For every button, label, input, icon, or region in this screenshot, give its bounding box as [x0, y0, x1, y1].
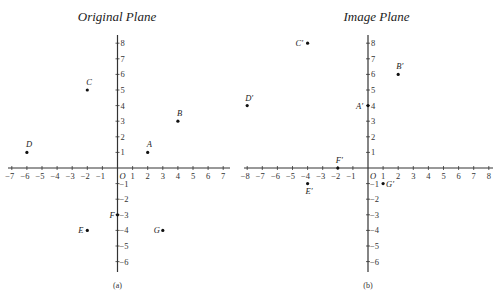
y-tick-label: 3	[371, 116, 375, 126]
coordinate-planes-figure: Original Plane−7−6−5−4−3−2−11234567−6−5−…	[0, 0, 495, 295]
y-tick-label: 7	[371, 54, 375, 64]
point-label: C	[86, 77, 92, 87]
y-tick-label: −4	[370, 225, 380, 235]
x-tick-label: −4	[301, 171, 311, 181]
x-tick-label: −7	[5, 171, 14, 181]
y-tick-label: 3	[121, 116, 125, 126]
point-marker	[116, 213, 119, 216]
point-label: B	[177, 108, 182, 118]
plane-title: Original Plane	[78, 9, 157, 24]
y-tick-label: 1	[371, 147, 375, 157]
x-tick-label: 7	[472, 171, 476, 181]
y-tick-label: 6	[121, 69, 125, 79]
x-tick-label: −1	[346, 171, 355, 181]
x-tick-label: −8	[241, 171, 250, 181]
y-tick-label: −2	[370, 194, 379, 204]
y-tick-label: −2	[120, 194, 129, 204]
y-tick-label: 2	[371, 132, 375, 142]
x-tick-label: −1	[96, 171, 105, 181]
y-tick-label: 4	[371, 101, 376, 111]
point-marker	[397, 73, 400, 76]
point-g: G	[154, 225, 165, 235]
point-marker	[176, 120, 179, 123]
y-tick-label: −5	[370, 241, 379, 251]
original-plane-panel: Original Plane−7−6−5−4−3−2−11234567−6−5−…	[5, 9, 230, 290]
x-tick-label: −7	[256, 171, 265, 181]
point-label: D	[25, 139, 33, 149]
x-tick-label: −2	[331, 171, 340, 181]
y-tick-label: −5	[120, 241, 129, 251]
x-tick-label: 6	[456, 171, 460, 181]
y-tick-label: 2	[121, 132, 125, 142]
point-label: G′	[386, 179, 394, 189]
point-label: C′	[296, 38, 304, 48]
point-d-prime: D′	[244, 93, 253, 108]
point-b-prime: B′	[396, 61, 403, 76]
image-plane-panel: Image Plane−8−7−6−5−4−3−2−112345678−6−5−…	[241, 9, 493, 290]
point-d: D	[25, 139, 33, 154]
plane-title: Image Plane	[342, 9, 409, 24]
x-tick-label: 3	[161, 171, 165, 181]
point-label: E′	[305, 186, 313, 196]
x-tick-label: 4	[176, 171, 181, 181]
x-tick-label: 6	[206, 171, 210, 181]
x-tick-label: 1	[130, 171, 134, 181]
panel-caption: (b)	[363, 281, 373, 290]
point-marker	[86, 88, 89, 91]
x-tick-label: 4	[426, 171, 431, 181]
x-tick-label: −4	[51, 171, 61, 181]
origin-label: O	[370, 171, 376, 181]
point-e-prime: E′	[305, 182, 313, 196]
point-marker	[382, 182, 385, 185]
point-a: A	[146, 139, 153, 154]
point-label: A	[146, 139, 153, 149]
x-tick-label: −3	[316, 171, 325, 181]
y-tick-label: −3	[370, 210, 379, 220]
y-tick-label: 6	[371, 69, 375, 79]
x-tick-label: 3	[411, 171, 415, 181]
y-tick-label: 5	[371, 85, 375, 95]
x-tick-label: −6	[20, 171, 29, 181]
point-label: E	[77, 225, 84, 235]
y-tick-label: −6	[120, 257, 129, 267]
point-c-prime: C′	[296, 38, 310, 48]
point-f-prime: F′	[335, 155, 343, 170]
x-tick-label: −6	[271, 171, 280, 181]
point-label: A′	[355, 101, 363, 111]
point-marker	[146, 151, 149, 154]
y-tick-label: −4	[120, 225, 130, 235]
point-b: B	[176, 108, 182, 123]
point-c: C	[86, 77, 93, 92]
point-marker	[366, 104, 369, 107]
point-marker	[25, 151, 28, 154]
point-label: B′	[396, 61, 403, 71]
x-tick-label: −5	[286, 171, 295, 181]
x-tick-label: 2	[396, 171, 400, 181]
x-tick-label: 7	[221, 171, 225, 181]
y-tick-label: 1	[121, 147, 125, 157]
point-marker	[86, 229, 89, 232]
y-tick-label: −3	[120, 210, 129, 220]
point-marker	[161, 229, 164, 232]
point-e: E	[77, 225, 89, 235]
y-tick-label: 4	[121, 101, 126, 111]
y-tick-label: 8	[121, 38, 125, 48]
x-tick-label: −5	[35, 171, 44, 181]
point-label: F	[109, 210, 116, 220]
point-marker	[336, 166, 339, 169]
panel-caption: (a)	[113, 281, 122, 290]
x-tick-label: −3	[66, 171, 75, 181]
y-tick-label: 5	[121, 85, 125, 95]
point-label: D′	[244, 93, 253, 103]
x-tick-label: 8	[487, 171, 491, 181]
x-tick-label: 5	[441, 171, 445, 181]
x-tick-label: 1	[381, 171, 385, 181]
origin-label: O	[120, 171, 126, 181]
x-tick-label: 5	[191, 171, 195, 181]
x-tick-label: 2	[146, 171, 150, 181]
y-tick-label: 7	[121, 54, 125, 64]
point-label: G	[154, 225, 160, 235]
y-tick-label: −6	[370, 257, 379, 267]
point-marker	[246, 104, 249, 107]
point-marker	[306, 42, 309, 45]
